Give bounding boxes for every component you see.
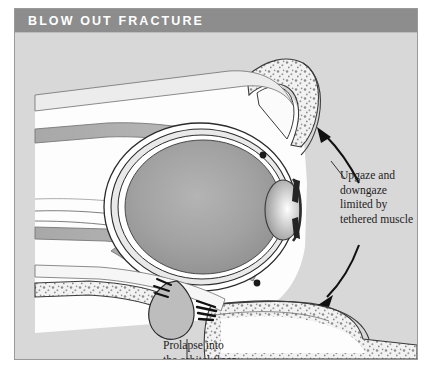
globe-vitreous (125, 140, 281, 274)
superior-tether-point (260, 152, 267, 159)
figure-panel: BLOW OUT FRACTURE (14, 8, 418, 360)
figure-header-bar: BLOW OUT FRACTURE (15, 9, 417, 33)
annotation-upgaze: Upgaze and downgaze limited by tethered … (340, 169, 413, 227)
inferior-tether-point (254, 280, 261, 287)
annotation-prolapse: Prolapse into the orbital floor fracture (163, 339, 236, 360)
figure-title: BLOW OUT FRACTURE (28, 14, 204, 28)
